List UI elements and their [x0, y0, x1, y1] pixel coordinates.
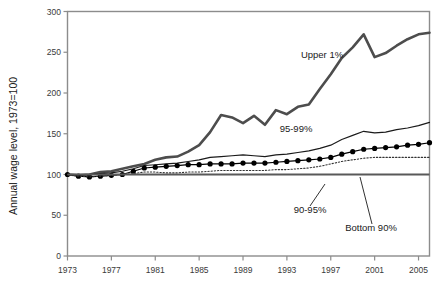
x-tick-label: 2005 [409, 265, 428, 275]
y-tick-label: 200 [47, 88, 61, 98]
series-marker [416, 142, 421, 147]
x-tick-label: 1985 [190, 265, 209, 275]
y-tick-label: 0 [56, 251, 61, 261]
series-marker [251, 160, 256, 165]
series-marker [262, 160, 267, 165]
y-tick-label: 250 [47, 47, 61, 57]
series-marker [273, 160, 278, 165]
x-tick-label: 1973 [58, 265, 77, 275]
series-marker [197, 162, 202, 167]
series-marker [383, 145, 388, 150]
x-tick-label: 1993 [277, 265, 296, 275]
series-marker [339, 152, 344, 157]
y-tick-label: 100 [47, 170, 61, 180]
series-marker [317, 156, 322, 161]
series-marker [295, 158, 300, 163]
chart-figure: Annual wage level, 1973=100 050100150200… [0, 0, 444, 287]
y-axis-title-text: Annual wage level, 1973=100 [7, 77, 19, 215]
chart-background [0, 0, 444, 287]
series-marker [229, 161, 234, 166]
series-annotation-label: Bottom 90% [345, 222, 397, 233]
y-tick-label: 50 [52, 210, 62, 220]
series-marker [186, 162, 191, 167]
x-tick-label: 1981 [146, 265, 165, 275]
series-marker [328, 155, 333, 160]
x-tick-label: 1989 [234, 265, 253, 275]
x-tick-label: 1997 [321, 265, 340, 275]
wage-inequality-line-chart: Annual wage level, 1973=100 050100150200… [0, 0, 444, 287]
series-marker [164, 164, 169, 169]
y-tick-label: 300 [47, 7, 61, 17]
series-annotation-label: Upper 1% [301, 49, 344, 60]
y-axis-title: Annual wage level, 1973=100 [7, 77, 19, 215]
x-axis-tick-labels: 197319771981198519891993199720012005 [58, 265, 428, 275]
series-marker [175, 163, 180, 168]
series-marker [240, 160, 245, 165]
y-tick-label: 150 [47, 129, 61, 139]
series-marker [306, 157, 311, 162]
series-annotation-label: 90-95% [294, 204, 327, 215]
x-tick-label: 2001 [365, 265, 384, 275]
series-marker [218, 161, 223, 166]
series-marker [284, 159, 289, 164]
series-marker [394, 144, 399, 149]
series-annotation-label: 95-99% [280, 123, 313, 134]
series-marker [208, 161, 213, 166]
series-marker [361, 147, 366, 152]
series-marker [372, 146, 377, 151]
series-marker [405, 143, 410, 148]
series-marker [350, 149, 355, 154]
series-marker [427, 140, 432, 145]
series-marker [142, 165, 147, 170]
series-marker [153, 165, 158, 170]
x-tick-label: 1977 [102, 265, 121, 275]
